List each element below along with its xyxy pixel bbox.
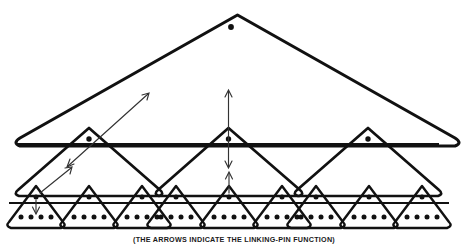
work-group-6-member-dot [275, 215, 280, 220]
work-group-9-member-dot [415, 215, 420, 220]
work-group-8-member-dot [352, 215, 357, 220]
work-group-8-member-dot [362, 215, 367, 220]
work-group-9-member-dot [405, 215, 410, 220]
diagram-caption: (THE ARROWS INDICATE THE LINKING-PIN FUN… [133, 235, 335, 244]
work-group-5-member-dot [222, 215, 227, 220]
middle-leader-dot-3 [365, 136, 370, 141]
work-group-2-leader-dot [87, 195, 92, 200]
work-group-5-leader-dot [227, 195, 232, 200]
work-group-9-member-dot [425, 215, 430, 220]
work-group-4-member-dot [169, 215, 174, 220]
linking-pin-diagram: (THE ARROWS INDICATE THE LINKING-PIN FUN… [0, 0, 468, 250]
work-group-1-member-dot [19, 215, 24, 220]
work-group-4-member-dot [189, 215, 194, 220]
work-group-triangle-8 [340, 186, 397, 228]
work-group-2-member-dot [102, 215, 107, 220]
work-group-9-member-dot [435, 215, 440, 220]
top-triangle-outline [16, 15, 459, 146]
work-group-7-member-dot [309, 215, 314, 220]
work-group-8-member-dot [382, 215, 387, 220]
top-leader-dot [228, 24, 234, 30]
work-group-7-member-dot [329, 215, 334, 220]
middle-leader-dot-1 [86, 136, 91, 141]
work-group-1-member-dot [29, 215, 34, 220]
work-group-6-member-dot [265, 215, 270, 220]
work-group-3-member-dot [135, 215, 140, 220]
work-group-7-member-dot [299, 215, 304, 220]
work-group-5-member-dot [212, 215, 217, 220]
work-group-2-outline [60, 186, 117, 228]
work-group-5-member-dot [232, 215, 237, 220]
work-group-8-leader-dot [367, 195, 372, 200]
arrow-diagonal-lower-left-shaft [40, 168, 71, 193]
work-group-1-member-dot [49, 215, 54, 220]
work-group-4-member-dot [179, 215, 184, 220]
work-group-8-member-dot [372, 215, 377, 220]
work-group-triangle-2 [60, 186, 117, 228]
work-group-9-leader-dot [420, 195, 425, 200]
work-group-3-member-dot [145, 215, 150, 220]
work-group-6-member-dot [285, 215, 290, 220]
arrow-diagonal-lower-left [40, 167, 72, 193]
work-group-2-member-dot [82, 215, 87, 220]
work-group-4-member-dot [159, 215, 164, 220]
work-group-6-leader-dot [280, 195, 285, 200]
work-group-3-leader-dot [140, 195, 145, 200]
work-group-7-member-dot [319, 215, 324, 220]
work-group-2-member-dot [72, 215, 77, 220]
work-group-4-leader-dot [174, 195, 179, 200]
work-group-2-member-dot [92, 215, 97, 220]
work-group-3-member-dot [125, 215, 130, 220]
work-group-1-member-dot [39, 215, 44, 220]
work-group-1-leader-dot [34, 195, 39, 200]
work-group-5-member-dot [242, 215, 247, 220]
work-group-8-outline [340, 186, 397, 228]
top-level-triangle [16, 15, 459, 146]
work-group-7-leader-dot [314, 195, 319, 200]
org-chart-svg: (THE ARROWS INDICATE THE LINKING-PIN FUN… [0, 0, 468, 250]
